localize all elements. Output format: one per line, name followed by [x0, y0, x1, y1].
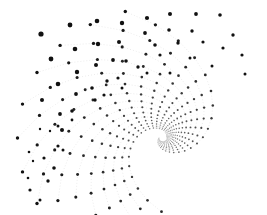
spiral-dot: [144, 116, 146, 118]
spiral-dot: [181, 92, 183, 94]
arc-line: [76, 113, 172, 198]
spiral-dot: [76, 76, 79, 79]
spiral-dot: [128, 131, 130, 133]
large-dot: [52, 166, 56, 170]
spiral-dot: [160, 144, 161, 145]
large-dot: [136, 65, 139, 68]
spiral-dot: [42, 172, 45, 175]
spiral-dot: [140, 132, 142, 134]
spiral-dot: [175, 124, 177, 126]
spiral-dot: [56, 199, 59, 202]
spiral-dot: [173, 125, 174, 126]
large-dot: [231, 33, 234, 36]
spiral-dot: [156, 127, 157, 128]
spiral-dot: [167, 132, 168, 133]
spiral-dot: [112, 120, 114, 122]
spiral-dot: [171, 129, 172, 130]
spiral-dot: [170, 130, 171, 131]
spiral-dot: [176, 142, 177, 143]
spiral-dot: [92, 42, 95, 45]
spiral-dot: [166, 142, 167, 143]
large-dot: [218, 13, 222, 17]
spiral-dot: [176, 128, 177, 129]
spiral-dot: [151, 123, 153, 125]
spiral-dot: [171, 141, 172, 142]
large-dot: [244, 73, 247, 76]
spiral-dot: [210, 117, 212, 119]
spiral-dot: [131, 176, 133, 178]
spiral-dot: [102, 171, 105, 174]
spiral-dot: [188, 132, 190, 134]
spiral-dot: [76, 173, 79, 176]
spiral-dot: [172, 137, 173, 138]
spiral-dot: [109, 145, 111, 147]
spiral-dot: [168, 140, 169, 141]
spiral-dot: [159, 137, 160, 138]
spiral-dot: [138, 121, 140, 123]
spiral-dot: [192, 140, 194, 142]
spiral-dot: [200, 94, 203, 97]
spiral-dot: [171, 138, 172, 139]
large-dot: [49, 57, 54, 62]
spiral-dot: [21, 170, 24, 173]
spiral-dot: [109, 93, 112, 96]
spiral-dot: [116, 135, 118, 137]
spiral-dot: [165, 150, 166, 151]
large-dot: [124, 59, 128, 63]
spiral-dot: [210, 90, 213, 93]
spiral-dot: [169, 151, 170, 152]
spiral-dot: [60, 173, 63, 176]
spiral-dot: [132, 134, 134, 136]
large-dot: [221, 46, 224, 49]
spiral-dot: [132, 141, 134, 143]
spiral-dot: [140, 124, 142, 126]
spiral-dot: [127, 120, 129, 122]
spiral-dot: [167, 129, 168, 130]
spiral-dot: [145, 130, 147, 132]
spiral-dot: [174, 145, 175, 146]
spiral-dot: [131, 124, 133, 126]
large-dot: [143, 31, 147, 35]
spiral-dot: [124, 147, 126, 149]
spiral-dot: [80, 135, 83, 138]
spiral-dot: [178, 151, 180, 153]
large-dot: [94, 63, 98, 67]
spiral-dot: [83, 116, 86, 119]
spiral-dot: [178, 123, 180, 125]
spiral-dot: [170, 134, 171, 135]
arc-line: [23, 73, 187, 145]
spiral-dot: [138, 130, 140, 132]
spiral-dot: [150, 112, 152, 114]
spiral-dot: [187, 86, 190, 89]
large-dot: [167, 28, 171, 32]
large-dot: [62, 149, 65, 152]
spiral-dot: [159, 128, 160, 129]
spiral-dot: [173, 140, 174, 141]
spiral-dot: [167, 134, 168, 135]
spiral-dot: [163, 130, 164, 131]
spiral-dot: [146, 199, 149, 202]
large-dots: [27, 12, 247, 202]
spiral-dot: [170, 115, 172, 117]
spiral-dot: [151, 102, 153, 104]
spiral-dot: [121, 45, 124, 48]
spiral-dot: [149, 128, 150, 129]
arc-line: [122, 126, 167, 209]
spiral-dot: [172, 142, 173, 143]
spiral-dot: [169, 123, 170, 124]
spiral-dot: [148, 126, 150, 128]
spiral-dot: [21, 102, 24, 105]
spiral-dot: [106, 114, 109, 117]
spiral-dot: [150, 108, 152, 110]
spiral-dot: [136, 136, 138, 138]
spiral-dot: [158, 140, 159, 141]
spiral-dot: [167, 135, 168, 136]
spiral-dot: [171, 102, 173, 104]
spiral-dot: [152, 96, 154, 98]
spiral-dot: [193, 56, 196, 59]
spiral-dot: [167, 138, 168, 139]
spiral-dot: [164, 141, 165, 142]
spiral-dot: [145, 120, 147, 122]
spiral-dot: [171, 134, 172, 135]
spiral-dot: [194, 126, 196, 128]
